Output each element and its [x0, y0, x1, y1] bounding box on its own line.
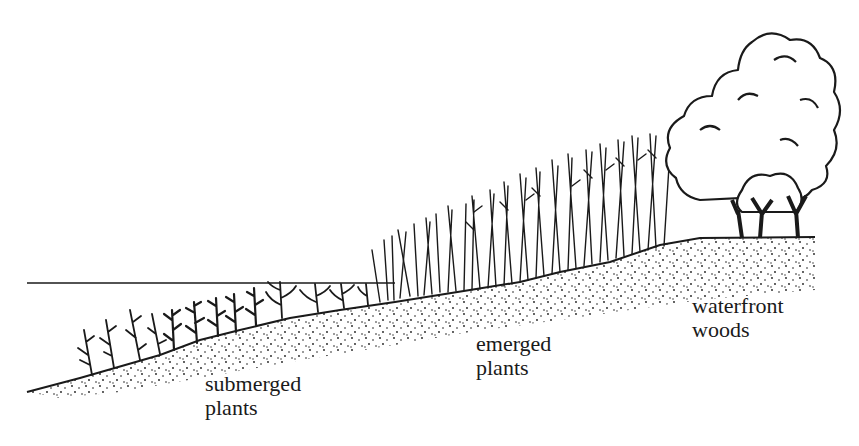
waterfront-woods-icon [666, 33, 840, 238]
label-emerged-plants: emerged plants [476, 332, 551, 380]
label-submerged-line1: submerged [205, 372, 301, 396]
lakeshore-zonation-diagram [0, 0, 859, 446]
label-waterfront-woods: waterfront woods [692, 294, 784, 342]
label-emerged-line1: emerged [476, 332, 551, 356]
label-emerged-line2: plants [476, 356, 551, 380]
label-woods-line2: woods [692, 318, 784, 342]
label-submerged-line2: plants [205, 396, 301, 420]
label-woods-line1: waterfront [692, 294, 784, 318]
label-submerged-plants: submerged plants [205, 372, 301, 420]
